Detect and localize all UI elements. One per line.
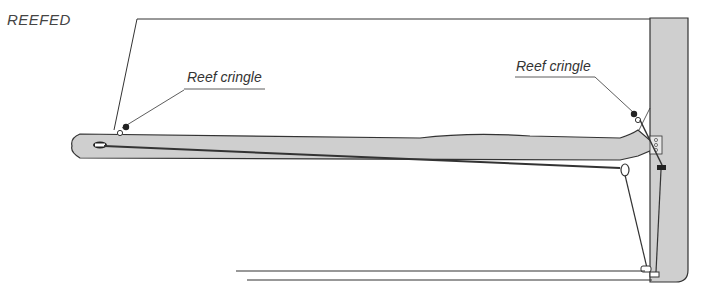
boom-block	[621, 164, 629, 176]
leader-line-left	[122, 90, 184, 128]
reef-cringle-right-dark	[631, 111, 637, 117]
boom	[72, 130, 652, 160]
leader-line-right	[595, 77, 634, 113]
deck-block-2	[650, 272, 659, 277]
sail-outline	[114, 19, 650, 130]
reef-cringle-left-dark	[123, 124, 129, 130]
reef-cringle-left-ring	[117, 130, 122, 135]
mast-cleat	[657, 165, 666, 170]
reef-cringle-right-ring	[635, 117, 640, 122]
reefing-diagram	[0, 0, 702, 292]
